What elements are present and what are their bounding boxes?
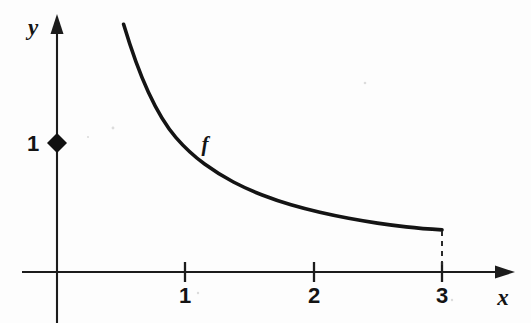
scan-speck bbox=[364, 82, 367, 85]
y-axis-group: 1 y bbox=[25, 14, 67, 323]
y-one-diamond-marker bbox=[47, 133, 67, 153]
scan-speck bbox=[451, 299, 453, 301]
math-figure: 1 2 3 x 1 y f bbox=[0, 0, 531, 323]
y-axis-arrow-icon bbox=[51, 14, 64, 34]
curve-label-f: f bbox=[202, 132, 211, 156]
x-tick-label-1: 1 bbox=[179, 283, 191, 308]
y-axis-label: y bbox=[25, 15, 39, 40]
x-axis-label: x bbox=[496, 285, 509, 310]
function-curve-group: f bbox=[124, 24, 442, 230]
scan-speck bbox=[112, 127, 115, 130]
x-axis-arrow-icon bbox=[495, 266, 515, 279]
function-plot-canvas: 1 2 3 x 1 y f bbox=[0, 0, 531, 323]
scan-speck bbox=[87, 136, 89, 138]
x-tick-label-2: 2 bbox=[308, 283, 320, 308]
x-tick-label-3: 3 bbox=[436, 283, 448, 308]
scan-noise-group bbox=[87, 82, 453, 301]
x-axis-group: 1 2 3 x bbox=[22, 262, 515, 310]
y-tick-label-1: 1 bbox=[27, 131, 39, 156]
curve-f-of-x bbox=[124, 24, 442, 230]
scan-speck bbox=[197, 292, 199, 294]
